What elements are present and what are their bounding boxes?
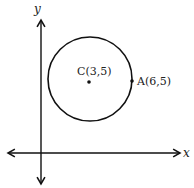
point-a bbox=[130, 79, 134, 83]
y-axis-label: y bbox=[33, 2, 41, 16]
x-axis-label: x bbox=[183, 146, 190, 160]
point-a-label: A(6,5) bbox=[136, 75, 171, 88]
circle bbox=[48, 37, 132, 121]
center-label: C(3,5) bbox=[77, 65, 112, 78]
coordinate-diagram: x y C(3,5) A(6,5) bbox=[0, 0, 194, 188]
center-point bbox=[87, 80, 91, 84]
